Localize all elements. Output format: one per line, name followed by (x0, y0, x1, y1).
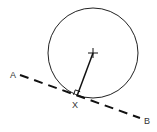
label-x: X (72, 101, 78, 110)
label-a: A (10, 71, 16, 80)
tangent-diagram (0, 0, 157, 132)
radius-line (77, 53, 93, 96)
label-b: B (144, 117, 150, 126)
center-plus-icon (88, 48, 98, 58)
tangent-line-ab (20, 75, 140, 118)
